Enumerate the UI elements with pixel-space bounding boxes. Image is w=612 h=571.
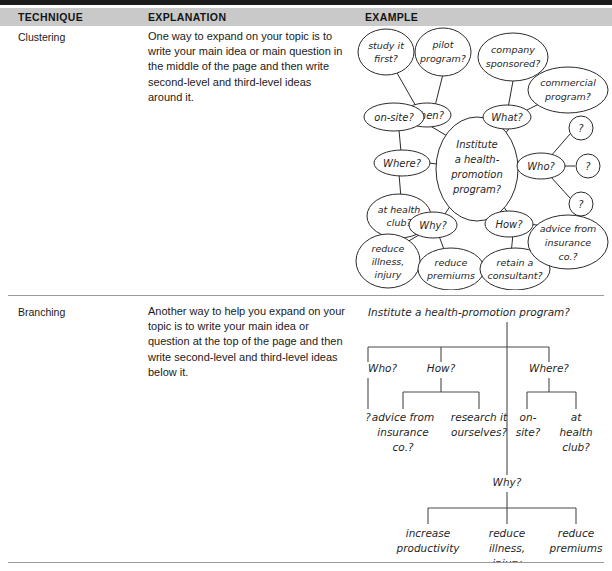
branch-why-connectors	[428, 492, 576, 524]
cluster-node-how: How?	[485, 211, 533, 237]
branch-leaf-onsite-line-1: on-	[520, 411, 537, 423]
column-header-explanation: EXPLANATION	[148, 11, 226, 23]
explanation-branching: Another way to help you expand on your t…	[148, 304, 348, 380]
branch-leaf-research-line-2: ourselves?	[451, 426, 507, 438]
cluster-node-on-site: on-site?	[364, 103, 424, 131]
reduce-premiums-line-1: reduce	[435, 257, 468, 268]
cluster-node-who: Who?	[517, 153, 565, 179]
column-header-example: EXAMPLE	[365, 11, 418, 23]
branch-node-how: How?	[427, 362, 456, 374]
branch-leaf-increase-line-1: increase	[406, 527, 451, 539]
branch-leaf-increase-line-2: productivity	[396, 542, 461, 554]
branch-leaf-reducepre-line-2: premiums	[549, 542, 603, 554]
branch-leaf-athealth-line-1: at	[571, 411, 582, 423]
branch-leaf-advice-line-3: co.?	[392, 441, 414, 453]
branch-leaf-reduceill-line-1: reduce	[489, 527, 525, 539]
cluster-node-where: Where?	[374, 150, 430, 176]
branch-node-who: Who?	[368, 362, 397, 374]
center-line-4: program?	[452, 184, 502, 195]
advice-insurance-line-1: advice from	[540, 223, 597, 234]
study-it-first-line-2: first?	[374, 53, 398, 64]
branch-leaf-advice-line-1: advice from	[372, 411, 434, 423]
reduce-premiums-line-2: premiums	[426, 270, 475, 281]
cluster-node-what: What?	[483, 105, 531, 129]
column-header-technique: TECHNIQUE	[18, 11, 83, 23]
cluster-node-company-sponsored: company sponsored?	[478, 33, 548, 81]
cluster-node-study-it-first: study it first?	[358, 29, 414, 75]
cluster-node-commercial-program: commercial program?	[528, 67, 608, 113]
cluster-node-question-1: ?	[569, 116, 593, 140]
who-label: Who?	[527, 161, 555, 172]
page-top-bar	[0, 0, 612, 5]
branch-leaf-reducepre-line-1: reduce	[558, 527, 594, 539]
how-label: How?	[495, 219, 523, 230]
commercial-program-line-1: commercial	[540, 77, 596, 88]
study-it-first-line-1: study it	[368, 40, 405, 51]
reduce-illness-line-2: illness,	[372, 256, 405, 267]
company-sponsored-line-2: sponsored?	[486, 58, 540, 69]
why-label: Why?	[419, 220, 447, 231]
branch-leaf-athealth-line-3: club?	[562, 441, 590, 453]
question-1-label: ?	[578, 123, 584, 134]
what-label: What?	[491, 112, 523, 123]
row-divider-middle	[8, 295, 604, 296]
branching-example-diagram: Institute a health-promotion program? Wh…	[355, 300, 611, 562]
branch-leaf-athealth-line-2: health	[559, 426, 592, 438]
technique-name-clustering: Clustering	[18, 31, 65, 43]
advice-insurance-line-2: insurance	[545, 237, 592, 248]
on-site-label: on-site?	[374, 112, 414, 123]
cluster-node-advice-insurance: advice from insurance co.?	[528, 215, 608, 269]
reduce-illness-line-1: reduce	[372, 243, 405, 254]
branch-leaf-onsite-line-2: site?	[516, 426, 541, 438]
at-health-club-line-2: club?	[387, 217, 412, 228]
cluster-node-pilot-program: pilot program?	[415, 28, 471, 76]
row-divider-bottom	[8, 562, 604, 563]
branch-leaf-question: ?	[365, 411, 371, 423]
branch-level3-connectors	[368, 378, 576, 409]
cluster-node-reduce-premiums: reduce premiums	[418, 248, 484, 290]
clustering-example-diagram: Institute a health- promotion program? s…	[355, 26, 611, 290]
branch-node-where: Where?	[529, 362, 569, 374]
center-line-2: a health-	[455, 154, 500, 165]
cluster-node-question-2: ?	[576, 154, 600, 178]
branch-leaf-reduceill-line-2: illness,	[489, 542, 525, 554]
branch-leaf-research-line-1: research it	[451, 411, 508, 423]
cluster-node-question-3: ?	[569, 192, 593, 216]
at-health-club-line-1: at health	[378, 204, 421, 215]
reduce-illness-line-3: injury	[375, 269, 402, 280]
center-line-1: Institute	[456, 139, 498, 150]
retain-consultant-line-2: consultant?	[487, 270, 542, 281]
technique-name-branching: Branching	[18, 306, 65, 318]
where-label: Where?	[383, 158, 422, 169]
cluster-node-why: Why?	[409, 212, 457, 238]
table-header-band	[0, 8, 612, 26]
pilot-program-line-2: program?	[419, 53, 466, 64]
advice-insurance-line-3: co.?	[558, 251, 577, 262]
cluster-node-reduce-illness-injury: reduce illness, injury	[356, 234, 420, 288]
pilot-program-line-1: pilot	[432, 39, 455, 50]
branch-node-why: Why?	[493, 476, 522, 488]
cluster-node-center: Institute a health- promotion program?	[436, 117, 518, 221]
question-3-label: ?	[578, 199, 584, 210]
center-line-3: promotion	[450, 169, 503, 180]
commercial-program-line-2: program?	[544, 91, 591, 102]
retain-consultant-line-1: retain a	[497, 257, 534, 268]
branch-leaf-advice-line-2: insurance	[377, 426, 428, 438]
question-2-label: ?	[585, 161, 591, 172]
explanation-clustering: One way to expand on your topic is to wr…	[148, 29, 348, 105]
branch-root-label: Institute a health-promotion program?	[368, 306, 570, 318]
company-sponsored-line-1: company	[491, 44, 535, 55]
